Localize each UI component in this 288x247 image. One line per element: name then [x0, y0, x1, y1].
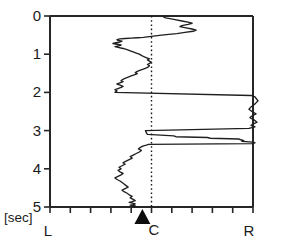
y-tick-label-0: 0	[33, 7, 41, 24]
y-tick-label-2: 2	[33, 83, 41, 100]
y-tick-label-4: 4	[33, 160, 41, 177]
figure-container: 012345 [sec] L C R	[0, 0, 288, 247]
y-tick-label-5: 5	[33, 198, 41, 215]
y-tick-label-3: 3	[33, 122, 41, 139]
position-trace	[113, 16, 258, 207]
target-triangle-marker	[134, 209, 150, 224]
y-axis-tick-labels: 012345	[33, 7, 41, 215]
plot-axes	[50, 16, 253, 207]
position-time-plot: 012345	[0, 0, 288, 247]
y-tick-label-1: 1	[33, 45, 41, 62]
